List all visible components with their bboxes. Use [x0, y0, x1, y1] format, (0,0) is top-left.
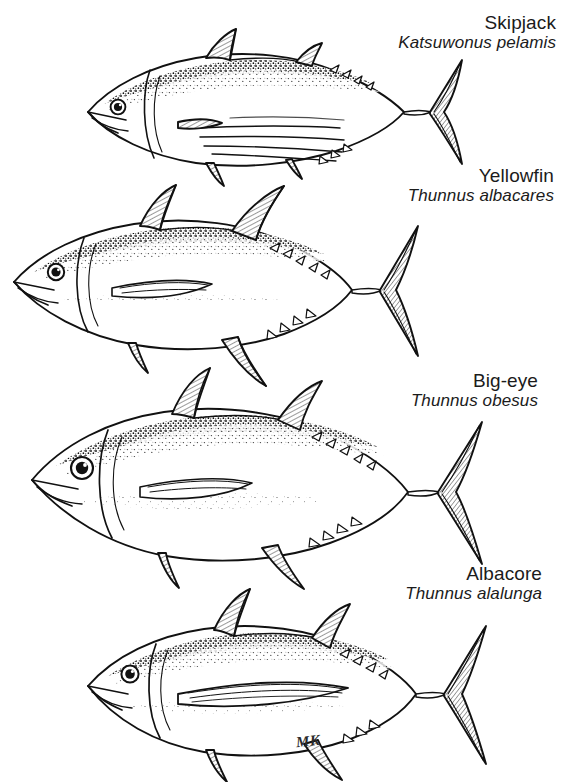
fish-yellowfin [14, 185, 418, 386]
species-label-bigeye: Big-eye Thunnus obesus [411, 370, 538, 410]
fish-albacore [88, 589, 486, 782]
tuna-identification-plate: Skipjack Katsuwonus pelamis Yellowfin Th… [0, 0, 570, 782]
species-scientific-name: Thunnus albacares [408, 186, 554, 205]
species-label-skipjack: Skipjack Katsuwonus pelamis [398, 12, 556, 52]
species-label-yellowfin: Yellowfin Thunnus albacares [408, 165, 554, 205]
species-common-name: Albacore [405, 563, 542, 584]
species-common-name: Skipjack [398, 12, 556, 33]
species-scientific-name: Thunnus obesus [411, 391, 538, 410]
artist-signature: MK [295, 732, 321, 751]
species-scientific-name: Katsuwonus pelamis [398, 33, 556, 52]
species-common-name: Big-eye [411, 370, 538, 391]
species-label-albacore: Albacore Thunnus alalunga [405, 563, 542, 603]
species-scientific-name: Thunnus alalunga [405, 584, 542, 603]
fish-skipjack [88, 29, 462, 186]
species-common-name: Yellowfin [408, 165, 554, 186]
